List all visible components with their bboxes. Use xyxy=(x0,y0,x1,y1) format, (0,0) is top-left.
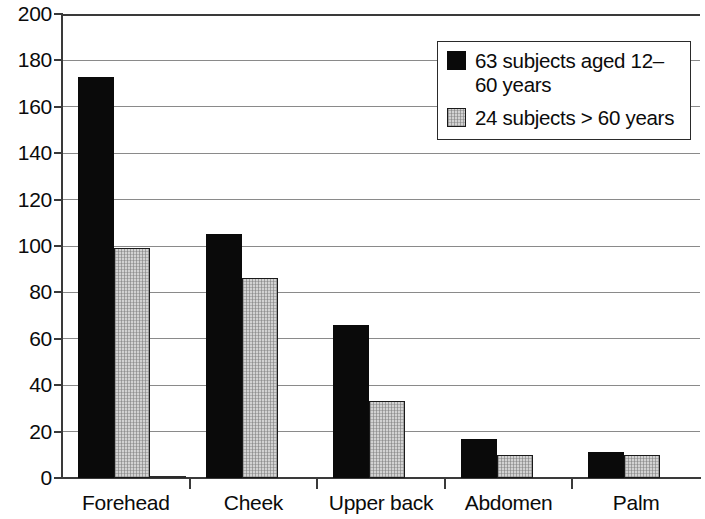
gridline-80 xyxy=(62,292,700,293)
gridline-120 xyxy=(62,199,700,200)
chart-legend: 63 subjects aged 12–60 years 24 subjects… xyxy=(437,41,691,140)
x-axis-category-label: Palm xyxy=(572,492,700,513)
x-tick xyxy=(571,479,573,489)
y-axis-tick-label: 200 xyxy=(4,3,52,24)
y-axis-tick-label: 0 xyxy=(4,467,52,488)
gridline-100 xyxy=(62,246,700,247)
gridline-200 xyxy=(62,14,700,16)
x-axis-category-label: Abdomen xyxy=(445,492,573,513)
gridline-60 xyxy=(62,338,700,339)
x-tick xyxy=(444,479,446,489)
y-axis-tick-label: 120 xyxy=(4,189,52,210)
y-tick-120 xyxy=(54,199,63,201)
gridline-140 xyxy=(62,153,700,154)
legend-label-series-a: 63 subjects aged 12–60 years xyxy=(475,49,682,97)
legend-swatch-black-icon xyxy=(447,51,466,70)
y-tick-60 xyxy=(54,338,63,340)
y-axis-labels: 020406080100120140160180200 xyxy=(0,0,52,519)
y-tick-180 xyxy=(54,59,63,61)
y-tick-140 xyxy=(54,152,63,154)
y-axis-tick-label: 60 xyxy=(4,328,52,349)
y-axis-tick-label: 40 xyxy=(4,374,52,395)
x-axis-category-label: Cheek xyxy=(190,492,318,513)
x-axis-category-label: Upper back xyxy=(317,492,445,513)
legend-item-series-a: 63 subjects aged 12–60 years xyxy=(447,49,682,97)
y-tick-80 xyxy=(54,291,63,293)
y-tick-40 xyxy=(54,384,63,386)
bar-chart: 020406080100120140160180200 ForeheadChee… xyxy=(0,0,705,519)
gridline-40 xyxy=(62,385,700,386)
y-axis-tick-label: 180 xyxy=(4,49,52,70)
y-axis-tick-label: 160 xyxy=(4,96,52,117)
x-tick xyxy=(189,479,191,489)
y-axis-tick-label: 140 xyxy=(4,142,52,163)
y-axis-tick-label: 100 xyxy=(4,235,52,256)
x-axis-category-label: Forehead xyxy=(62,492,190,513)
y-tick-160 xyxy=(54,106,63,108)
y-tick-100 xyxy=(54,245,63,247)
gridline-20 xyxy=(62,431,700,432)
x-tick xyxy=(316,479,318,489)
y-axis-tick-label: 80 xyxy=(4,281,52,302)
x-axis-line xyxy=(62,477,701,479)
legend-item-series-b: 24 subjects > 60 years xyxy=(447,106,682,130)
legend-label-series-b: 24 subjects > 60 years xyxy=(475,106,674,130)
y-axis-tick-label: 20 xyxy=(4,421,52,442)
y-tick-0 xyxy=(54,477,63,479)
y-tick-20 xyxy=(54,431,63,433)
legend-swatch-gray-hatched-icon xyxy=(447,108,466,127)
y-tick-200 xyxy=(54,13,63,15)
